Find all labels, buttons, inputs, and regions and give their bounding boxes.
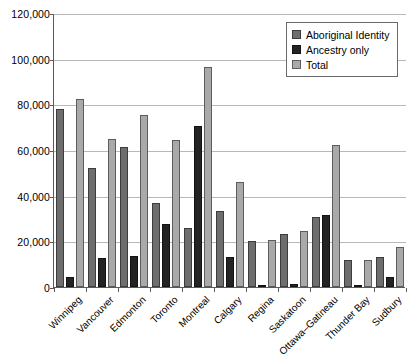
bar-group: [246, 13, 278, 287]
bar: [248, 241, 257, 287]
bar: [364, 260, 373, 287]
x-tick-mark: [86, 288, 87, 292]
bar: [376, 257, 385, 287]
x-tick-mark: [374, 288, 375, 292]
bar: [76, 99, 85, 287]
bar: [184, 228, 193, 287]
bar: [56, 109, 65, 287]
legend-swatch-icon: [292, 60, 301, 69]
bar: [88, 168, 97, 287]
x-tick-mark: [150, 288, 151, 292]
bar-group: [150, 13, 182, 287]
bar: [290, 284, 299, 287]
bar: [66, 277, 75, 287]
x-tick-mark: [246, 288, 247, 292]
x-tick-mark: [182, 288, 183, 292]
bar: [332, 145, 341, 287]
y-axis-tick-label: 60,000: [0, 145, 50, 157]
bar: [396, 247, 405, 287]
y-axis-tick-label: 20,000: [0, 236, 50, 248]
legend-item: Aboriginal Identity: [292, 27, 389, 42]
bar: [312, 217, 321, 287]
bar: [322, 215, 331, 287]
legend-label: Total: [306, 59, 328, 71]
bar-group: [118, 13, 150, 287]
bar-group: [214, 13, 246, 287]
legend-swatch-icon: [292, 45, 301, 54]
x-tick-mark: [54, 288, 55, 292]
legend-swatch-icon: [292, 30, 301, 39]
bar: [216, 211, 225, 287]
bar-group: [86, 13, 118, 287]
bar: [162, 224, 171, 287]
y-axis-tick-label: 40,000: [0, 191, 50, 203]
bar-chart: 020,00040,00060,00080,000100,000120,000 …: [0, 0, 411, 355]
bar: [130, 256, 139, 287]
bar-group: [54, 13, 86, 287]
bar: [120, 147, 129, 287]
bar: [98, 258, 107, 287]
bar: [108, 139, 117, 287]
bar: [226, 257, 235, 287]
bar: [194, 126, 203, 287]
bar: [268, 240, 277, 287]
y-axis-tick-label: 100,000: [0, 54, 50, 66]
y-axis-tick-label: 120,000: [0, 8, 50, 20]
legend-label: Ancestry only: [306, 44, 369, 56]
x-tick-mark: [214, 288, 215, 292]
x-tick-mark: [278, 288, 279, 292]
chart-legend: Aboriginal IdentityAncestry onlyTotal: [286, 22, 398, 77]
bar: [258, 285, 267, 287]
bar: [280, 234, 289, 287]
x-tick-mark: [310, 288, 311, 292]
x-tick-mark: [342, 288, 343, 292]
y-axis-tick-label: 80,000: [0, 99, 50, 111]
bar: [172, 140, 181, 287]
legend-label: Aboriginal Identity: [306, 29, 389, 41]
bar: [300, 231, 309, 287]
x-tick-mark: [406, 288, 407, 292]
legend-item: Ancestry only: [292, 42, 389, 57]
y-axis-tick-label: 0: [0, 282, 50, 294]
bar: [152, 203, 161, 287]
bar: [204, 67, 213, 287]
x-tick-mark: [118, 288, 119, 292]
bar-group: [182, 13, 214, 287]
bar: [140, 115, 149, 287]
bar: [354, 285, 363, 287]
bar: [386, 277, 395, 287]
bar: [344, 260, 353, 287]
bar: [236, 182, 245, 287]
legend-item: Total: [292, 57, 389, 72]
